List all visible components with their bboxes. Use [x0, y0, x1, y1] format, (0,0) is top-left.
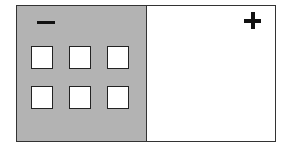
- square-r1-c3: [107, 46, 129, 69]
- square-r1-c1: [31, 46, 53, 69]
- minus-icon: [37, 21, 55, 24]
- square-r2-c3: [107, 86, 129, 109]
- square-r2-c2: [69, 86, 91, 109]
- left-panel-shaded: [17, 6, 147, 141]
- diagram-frame: [16, 5, 276, 142]
- plus-icon: [244, 12, 261, 29]
- square-r1-c2: [69, 46, 91, 69]
- square-r2-c1: [31, 86, 53, 109]
